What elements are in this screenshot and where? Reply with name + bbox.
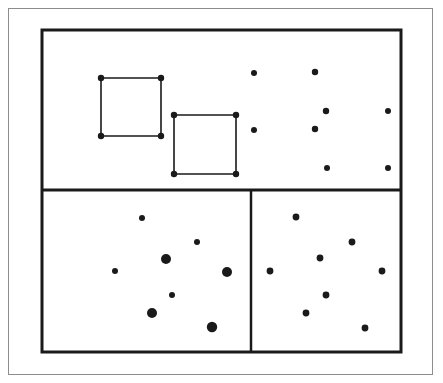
- top-region-point-8: [385, 165, 391, 171]
- bottom-left-region-point-4: [112, 268, 118, 274]
- bottom-right-region-point-5: [379, 268, 386, 275]
- bottom-left-region-point-5: [222, 267, 232, 277]
- top-region-point-2: [312, 69, 318, 75]
- bottom-right-region-point-7: [303, 310, 310, 317]
- square-1-vertex-3: [158, 133, 164, 139]
- top-region-point-1: [251, 70, 257, 76]
- square-2-vertex-3: [233, 171, 239, 177]
- square-1-vertex-2: [158, 75, 164, 81]
- bottom-left-region-point-3: [161, 254, 171, 264]
- top-region-point-7: [324, 165, 330, 171]
- bottom-left-region-point-8: [207, 322, 217, 332]
- top-region-point-3: [323, 108, 329, 114]
- bottom-left-region-point-2: [194, 239, 200, 245]
- diagram-canvas: [0, 0, 443, 383]
- bottom-left-region-point-1: [139, 215, 145, 221]
- figure-root: [0, 0, 443, 383]
- bottom-right-region-point-3: [317, 255, 324, 262]
- top-region-point-5: [251, 127, 257, 133]
- top-region-point-4: [385, 108, 391, 114]
- square-2-vertex-4: [171, 171, 177, 177]
- square-2-vertex-2: [233, 112, 239, 118]
- bottom-right-region-point-1: [293, 214, 300, 221]
- bottom-left-region-point-7: [147, 308, 157, 318]
- bottom-right-region-point-2: [349, 239, 356, 246]
- bottom-right-region-point-6: [323, 292, 330, 299]
- square-1-vertex-1: [98, 75, 104, 81]
- square-1-vertex-4: [98, 133, 104, 139]
- bottom-left-region-point-6: [169, 292, 175, 298]
- top-region-point-6: [312, 126, 318, 132]
- bottom-right-region-point-4: [267, 268, 274, 275]
- bottom-right-region-point-8: [362, 325, 369, 332]
- square-2-vertex-1: [171, 112, 177, 118]
